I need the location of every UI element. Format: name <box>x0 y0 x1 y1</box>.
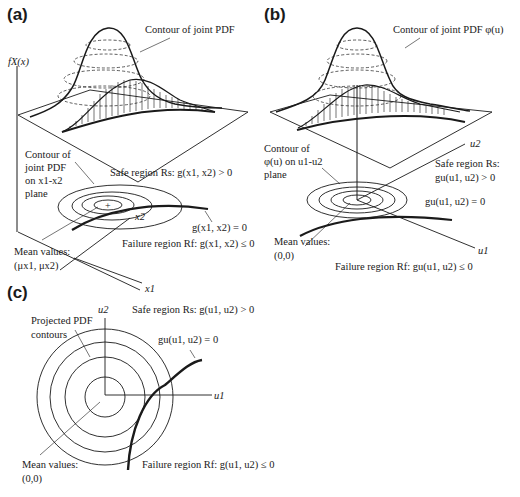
u2-axis-label: u2 <box>470 138 481 150</box>
x1-axis-label: x1 <box>145 283 155 295</box>
panel-b-graphic <box>270 28 492 248</box>
x1-axis <box>74 258 142 283</box>
limit-state-label: gu(u1, u2) = 0 <box>158 334 218 346</box>
safe-region-label: Safe region Rs: g(u1, u2) > 0 <box>132 304 254 316</box>
limit-state-label: gu(u1, u2) = 0 <box>425 196 485 208</box>
failure-region-label: Failure region Rf: gu(u1, u2) ≤ 0 <box>335 261 473 273</box>
u1-axis-label: u1 <box>214 390 225 402</box>
panel-b-tag: (b) <box>264 5 286 25</box>
safe-region-label: Safe region Rs: gu(u1, u2) > 0 <box>435 157 500 185</box>
failure-region-label: Failure region Rf: g(u1, u2) ≤ 0 <box>142 459 275 471</box>
x2-axis-label: x2 <box>135 211 145 223</box>
limit-state-label: g(x1, x2) = 0 <box>192 222 247 234</box>
fx-axis-label: fX(x) <box>8 56 29 68</box>
failure-region-label: Failure region Rf: g(x1, x2) ≤ 0 <box>122 238 255 250</box>
plane-contour-label: Contour of joint PDF on x1-x2 plane <box>25 148 71 200</box>
plane-contour-label: Contour of φ(u) on u1-u2 plane <box>264 142 323 181</box>
projected-contours-label: Projected PDF contours <box>31 314 93 342</box>
panel-c-tag: (c) <box>7 283 28 303</box>
pdf-contour-label: Contour of joint PDF <box>145 24 235 36</box>
panel-a-tag: (a) <box>7 5 28 25</box>
mean-values-label: Mean values: (0,0) <box>22 458 78 486</box>
pdf-contour-label: Contour of joint PDF φ(u) <box>393 24 503 36</box>
u2-axis-label: u2 <box>98 304 109 316</box>
u1-axis-label: u1 <box>478 245 489 257</box>
reliability-diagram: + <box>0 0 520 497</box>
mean-values-label: Mean values: (μx1, μx2) <box>14 245 70 273</box>
safe-region-label: Safe region Rs: g(x1, x2) > 0 <box>110 167 232 179</box>
mean-values-label: Mean values: (0,0) <box>274 235 330 263</box>
x2-axis <box>60 218 130 270</box>
svg-text:+: + <box>105 200 111 211</box>
